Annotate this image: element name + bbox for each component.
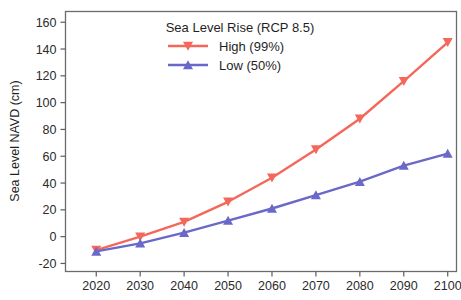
chart-canvas: -20020406080100120140160 Sea Level NAVD … xyxy=(0,0,461,300)
y-tick-label: 40 xyxy=(43,177,57,191)
y-tick-label: 100 xyxy=(36,96,57,110)
y-tick-label: -20 xyxy=(38,257,56,271)
legend-title: Sea Level Rise (RCP 8.5) xyxy=(166,20,315,35)
x-tick-label: 2040 xyxy=(170,279,198,293)
x-tick-label: 2090 xyxy=(390,279,418,293)
legend-label: Low (50%) xyxy=(219,58,281,73)
x-tick-label: 2060 xyxy=(258,279,286,293)
legend-label: High (99%) xyxy=(219,39,284,54)
x-tick-label: 2050 xyxy=(214,279,242,293)
x-tick-label: 2100 xyxy=(434,279,461,293)
x-tick-label: 2030 xyxy=(126,279,154,293)
y-tick-label: 160 xyxy=(36,16,57,30)
y-tick-label: 120 xyxy=(36,69,57,83)
y-tick-label: 80 xyxy=(43,123,57,137)
y-tick-label: 140 xyxy=(36,43,57,57)
y-axis-title: Sea Level NAVD (cm) xyxy=(8,80,22,201)
x-tick-label: 2020 xyxy=(82,279,110,293)
sea-level-rise-chart: -20020406080100120140160 Sea Level NAVD … xyxy=(0,0,461,300)
y-tick-label: 20 xyxy=(43,203,57,217)
x-tick-label: 2070 xyxy=(302,279,330,293)
y-tick-label: 0 xyxy=(50,230,57,244)
y-tick-label: 60 xyxy=(43,150,57,164)
x-tick-label: 2080 xyxy=(346,279,374,293)
